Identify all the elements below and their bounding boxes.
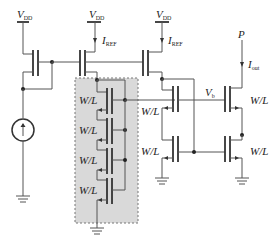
cascode-nmos-right xyxy=(225,86,242,112)
mirror-right-wl-label: W/L xyxy=(250,145,268,157)
cascode-right-wl-label: W/L xyxy=(250,94,268,106)
stack-wl-label-1: W/L xyxy=(79,94,97,106)
ground-icon-mirror-left xyxy=(155,178,169,184)
pmos-right xyxy=(143,50,148,76)
pmos-left xyxy=(33,50,52,76)
ground-icon-mirror-right xyxy=(235,178,249,184)
mirror-left-wl-label: W/L xyxy=(141,145,159,157)
p-node-label: P xyxy=(237,28,245,40)
mirror-nmos-left xyxy=(162,136,178,162)
iref-arrow-right-icon xyxy=(160,38,164,43)
vdd-left-label: VDD xyxy=(17,8,33,21)
vdd-right-label: VDD xyxy=(156,8,172,21)
iout-label: Iout xyxy=(247,58,260,71)
ground-icon-left xyxy=(16,196,30,202)
circuit-schematic: VDD VDD VDD IREF IREF P Iout Vb W/L W/L … xyxy=(0,0,275,243)
iref-mid-label: IREF xyxy=(101,34,117,47)
iref-right-label: IREF xyxy=(167,34,183,47)
cascode-left-wl-label: W/L xyxy=(141,105,159,117)
mirror-nmos-right xyxy=(225,136,242,162)
vb-label: Vb xyxy=(205,86,215,99)
cascode-nmos-left xyxy=(162,86,178,112)
stack-wl-label-4: W/L xyxy=(79,184,97,196)
iref-arrow-mid-icon xyxy=(93,38,97,43)
iout-arrow-icon xyxy=(240,62,244,67)
current-source-icon xyxy=(12,119,34,141)
ground-icon-stack xyxy=(90,228,104,234)
stack-wl-label-2: W/L xyxy=(79,124,97,136)
pmos-mid xyxy=(80,50,85,76)
vdd-mid-label: VDD xyxy=(89,8,105,21)
stack-wl-label-3: W/L xyxy=(79,154,97,166)
